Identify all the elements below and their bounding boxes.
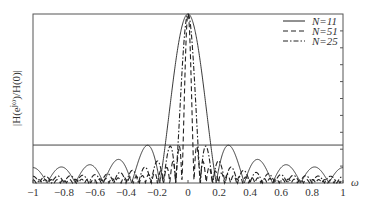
x-axis-label: ω	[351, 176, 359, 188]
x-tick-label: −0.2	[147, 186, 167, 198]
x-tick-label: 0.8	[305, 186, 319, 198]
x-tick-label: 0.6	[274, 186, 288, 198]
svg-text:|H(ejω)/H(0)|: |H(ejω)/H(0)|	[9, 70, 24, 126]
curve-n-11	[33, 14, 343, 183]
x-tick-label: 0	[185, 186, 191, 198]
x-tick-label: −0.4	[116, 186, 136, 198]
curves	[33, 14, 343, 183]
legend-label: N=25	[311, 35, 338, 47]
legend: N=11N=51N=25	[283, 15, 338, 47]
x-tick-label: 1	[340, 186, 346, 198]
x-tick-label: 0.4	[243, 186, 257, 198]
plot-frame	[33, 14, 343, 183]
x-tick-label: −0.6	[85, 186, 105, 198]
y-axis-label: |H(ejω)/H(0)|	[9, 70, 24, 126]
x-tick-label: 0.2	[212, 186, 226, 198]
x-tick-label: −0.8	[54, 186, 74, 198]
x-tick-label: −1	[27, 186, 39, 198]
curve-n-25	[33, 14, 343, 183]
curve-n-51	[33, 14, 343, 183]
chart: −1−0.8−0.6−0.4−0.200.20.40.60.81 N=11N=5…	[0, 0, 366, 210]
